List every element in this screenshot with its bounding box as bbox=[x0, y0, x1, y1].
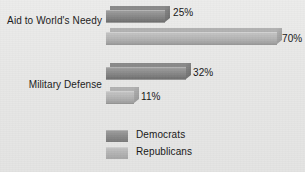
bar-aid-republicans bbox=[106, 28, 281, 44]
bar-shadow bbox=[106, 79, 186, 80]
bar-shadow bbox=[106, 44, 277, 45]
bar-shadow bbox=[106, 22, 165, 23]
bar-end-cap bbox=[134, 87, 139, 103]
value-label-aid-democrats: 25% bbox=[173, 7, 193, 18]
bar-shadow bbox=[106, 103, 134, 104]
bar-end-cap bbox=[186, 63, 191, 79]
legend-label-republicans: Republicans bbox=[136, 146, 192, 157]
bar-aid-democrats bbox=[106, 6, 169, 22]
category-label-military-defense: Military Defense bbox=[29, 79, 102, 90]
category-label-aid-to-worlds-needy: Aid to World's Needy bbox=[7, 15, 102, 26]
bar-chart: Aid to World's Needy Military Defense 25… bbox=[0, 0, 305, 172]
bar-front-face bbox=[106, 67, 186, 79]
legend-label-democrats: Democrats bbox=[136, 129, 185, 140]
bar-defense-democrats bbox=[106, 63, 190, 79]
bar-front-face bbox=[106, 32, 277, 44]
value-label-defense-republicans: 11% bbox=[141, 91, 161, 102]
legend-swatch-republicans bbox=[106, 147, 128, 159]
bar-front-face bbox=[106, 10, 165, 22]
bar-end-cap bbox=[165, 6, 170, 22]
bar-front-face bbox=[106, 91, 134, 103]
bar-defense-republicans bbox=[106, 87, 138, 103]
value-label-defense-democrats: 32% bbox=[193, 67, 213, 78]
legend-swatch-democrats bbox=[106, 130, 128, 142]
value-label-aid-republicans: 70% bbox=[282, 33, 302, 44]
